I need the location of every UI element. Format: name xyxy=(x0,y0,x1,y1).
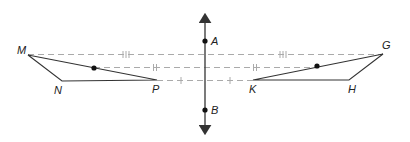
point-B xyxy=(202,107,207,112)
label-P: P xyxy=(152,84,159,95)
label-B: B xyxy=(211,105,218,116)
label-N: N xyxy=(54,85,62,96)
midpoint-GK xyxy=(314,63,319,68)
point-A xyxy=(202,38,207,43)
label-A: A xyxy=(211,36,218,47)
diagram-svg xyxy=(0,0,410,142)
label-H: H xyxy=(348,84,356,95)
label-G: G xyxy=(382,40,391,51)
label-M: M xyxy=(17,45,26,56)
midpoint-MP xyxy=(91,65,96,70)
label-K: K xyxy=(249,84,256,95)
reflection-diagram: A B M N P G H K xyxy=(0,0,410,142)
